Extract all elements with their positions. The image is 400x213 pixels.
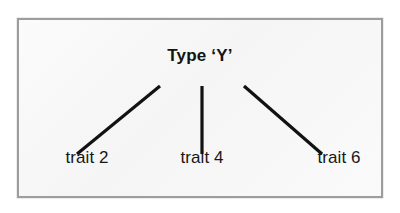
- diagram-frame: Type ‘Y’ trait 2 trait 4 trait 6: [17, 18, 383, 198]
- root-node-label: Type ‘Y’: [19, 46, 381, 66]
- figure-canvas: Type ‘Y’ trait 2 trait 4 trait 6: [0, 0, 400, 213]
- leaf-node-label-trait-4: trait 4: [142, 148, 262, 168]
- leaf-node-label-trait-2: trait 2: [27, 148, 147, 168]
- leaf-node-label-trait-6: trait 6: [279, 148, 399, 168]
- edge-root-to-trait-6: [244, 86, 322, 154]
- edge-root-to-trait-2: [77, 86, 160, 154]
